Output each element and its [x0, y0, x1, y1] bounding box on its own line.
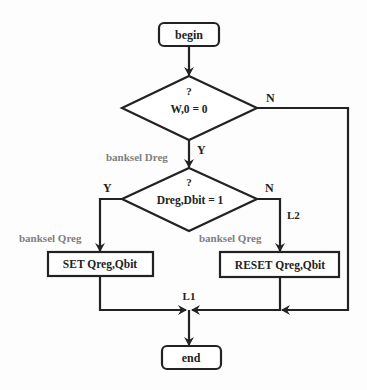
- decision1-question: ?: [186, 85, 192, 97]
- set-node: SET Qreg,Qbit: [48, 252, 153, 276]
- edge-decision1-no: [257, 108, 348, 310]
- decision2-label: Dreg,Dbit = 1: [157, 194, 224, 207]
- decision1-no-label: N: [266, 91, 275, 105]
- end-node: end: [162, 346, 221, 369]
- flowchart-canvas: begin ? W,0 = 0 N Y banksel Dreg ? Dreg,…: [0, 0, 367, 390]
- decision2-no-label: N: [265, 181, 274, 195]
- edge-decision2-yes: [100, 199, 122, 251]
- decision1-yes-label: Y: [197, 143, 206, 157]
- banksel-dreg-annotation: banksel Dreg: [106, 151, 168, 163]
- reset-label: RESET Qreg,Qbit: [235, 259, 325, 272]
- banksel-qreg-right-annotation: banksel Qreg: [199, 232, 262, 244]
- begin-node: begin: [159, 23, 219, 46]
- decision1-label: W,0 = 0: [170, 103, 207, 115]
- l1-label: L1: [183, 290, 196, 302]
- edge-set-merge: [100, 276, 186, 310]
- l2-label: L2: [287, 209, 300, 221]
- end-label: end: [182, 351, 201, 365]
- decision2-yes-label: Y: [103, 181, 112, 195]
- reset-node: RESET Qreg,Qbit: [220, 252, 339, 277]
- set-label: SET Qreg,Qbit: [63, 258, 138, 271]
- decision2-node: ? Dreg,Dbit = 1: [122, 168, 257, 231]
- decision2-question: ?: [186, 176, 192, 188]
- banksel-qreg-left-annotation: banksel Qreg: [19, 232, 82, 244]
- edge-reset-merge: [192, 277, 280, 310]
- decision1-node: ? W,0 = 0: [122, 76, 257, 140]
- flowchart-svg: begin ? W,0 = 0 N Y banksel Dreg ? Dreg,…: [0, 0, 367, 390]
- begin-label: begin: [175, 28, 203, 42]
